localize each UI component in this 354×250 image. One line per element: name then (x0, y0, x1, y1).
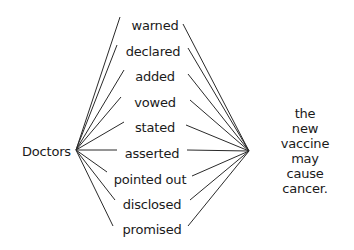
subject-connector-line (76, 150, 113, 226)
subject-connector-line (76, 150, 115, 200)
verb-label-asserted: asserted (125, 146, 180, 161)
subject-label: Doctors (22, 144, 71, 159)
object-connector-line (186, 125, 249, 151)
verb-label-promised: promised (123, 222, 182, 237)
subject-connector-line (76, 97, 121, 150)
object-connector-line (190, 151, 249, 200)
verb-fan-diagram: Doctors warneddeclaredaddedvowedstatedas… (0, 0, 354, 250)
object-connector-line (192, 151, 249, 176)
subject-connector-line (76, 122, 124, 150)
object-connector-line (188, 74, 249, 151)
verb-label-disclosed: disclosed (123, 197, 182, 212)
verb-label-declared: declared (126, 44, 181, 59)
subject-connector-line (76, 45, 117, 150)
object-clause-label: the new vaccine may cause cancer. (281, 106, 330, 196)
verb-label-warned: warned (131, 18, 178, 33)
object-connector-line (187, 150, 249, 151)
verb-label-added: added (135, 69, 175, 84)
object-connector-line (188, 48, 249, 151)
object-connector-line (188, 151, 249, 226)
verb-label-stated: stated (135, 120, 175, 135)
subject-connector-line (76, 70, 124, 150)
verb-label-pointed-out: pointed out (114, 172, 187, 187)
object-connector-line (190, 100, 249, 151)
subject-connector-line (76, 17, 120, 150)
object-connector-line (183, 24, 249, 151)
verb-label-vowed: vowed (134, 95, 176, 110)
subject-connector-line (76, 150, 107, 172)
